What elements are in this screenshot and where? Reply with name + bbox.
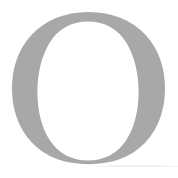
scan-line-artifact-secondary bbox=[108, 165, 166, 166]
capital-letter-o-glyph bbox=[0, 0, 178, 178]
glyph-layer bbox=[0, 0, 178, 178]
image-canvas bbox=[0, 0, 178, 178]
scan-line-artifact bbox=[96, 166, 178, 167]
